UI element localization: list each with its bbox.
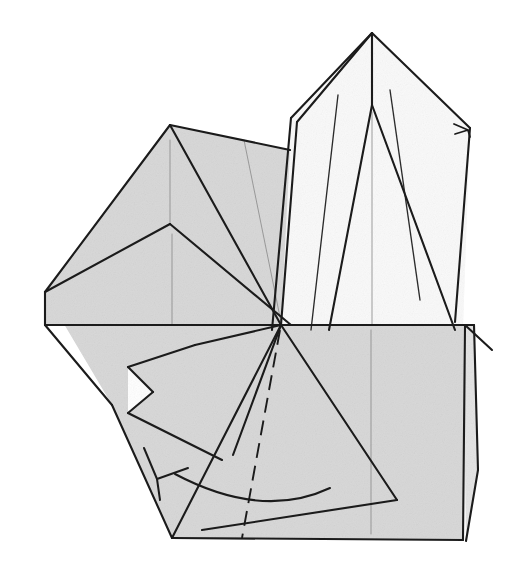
origami-figure-root [0,0,515,576]
faces-group [45,33,478,541]
origami-diagram-svg [0,0,515,576]
